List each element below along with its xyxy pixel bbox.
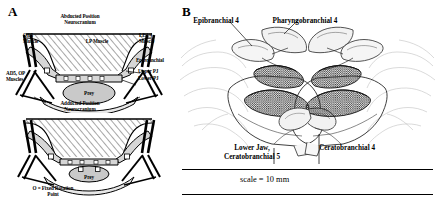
od5-muscle-label: OD5 Muscle [23,32,49,44]
epibranchial-4-label: Epibranchial 4 [180,17,252,26]
pharyngobranchial-4-label: Pharyngobranchial 4 [252,17,358,26]
scale-rule-bottom [182,194,433,195]
prey-label-upper: Prey [66,90,112,96]
epibranchial-label: Epibranchial [136,57,176,63]
figure-root: A Abducted Position Neurocranium [0,0,437,203]
panel-a-letter: A [8,4,17,20]
upper-pj-label: Upper PJ [138,68,172,74]
ceratobranchial-4-label: Ceratobranchial 4 [300,144,394,153]
panel-a: A Abducted Position Neurocranium [0,0,178,203]
rotation-point-key: O = Fixed Rotation Point [16,185,90,197]
lower-jaw-ceratobranchial-5-label: Lower Jaw, Ceratobranchial 5 [204,144,300,161]
panel-b: B [178,0,437,203]
scale-bar-label: scale = 10 mm [240,175,289,184]
lp-muscle-label: LP Muscle [80,38,114,44]
neurocranium-label-lower: Neurocranium [38,106,122,112]
lower-pj-label: Lower PJ [138,75,172,81]
prey-label-lower: Prey [66,174,112,180]
le34-muscle-label: LE3/4 Muscle [139,32,169,44]
ad5-op-muscles-label: AD5, OP Muscles [6,70,40,82]
scale-rule-top [182,169,433,170]
